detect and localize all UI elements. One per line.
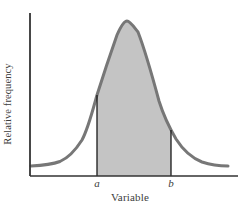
shaded-area-between-a-and-b — [97, 21, 171, 176]
y-axis-title: Relative frequency — [2, 63, 13, 144]
tick-label-b: b — [168, 177, 174, 189]
tick-label-a: a — [94, 177, 100, 189]
distribution-plot — [0, 0, 246, 209]
x-axis-title: Variable — [111, 191, 149, 203]
figure-root: Relative frequency Variable a b — [0, 0, 246, 209]
